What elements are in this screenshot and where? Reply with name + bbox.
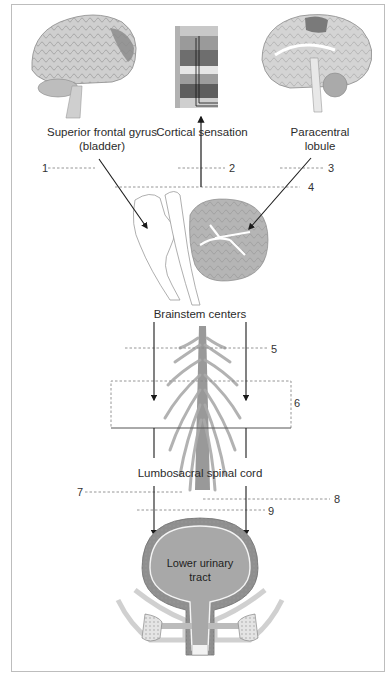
marker-6: 6 — [294, 397, 300, 409]
marker-1: 1 — [42, 162, 48, 174]
label-paracentral-line1: Paracentral — [280, 125, 360, 139]
level-dashes-top — [48, 168, 325, 187]
label-cortical-sensation: Cortical sensation — [152, 125, 252, 139]
medial-brain-illustration — [262, 15, 372, 112]
lateral-brain-illustration — [32, 15, 136, 118]
label-paracentral-line2: lobule — [280, 139, 360, 153]
marker-2: 2 — [229, 162, 235, 174]
brainstem-cerebellum-illustration — [133, 192, 268, 306]
label-lower-urinary-tract-line1: Lower urinary — [160, 556, 240, 570]
label-lower-urinary-tract-line2: tract — [160, 570, 240, 584]
cortical-column-illustration — [175, 26, 218, 108]
marker-8: 8 — [334, 493, 340, 505]
marker-9: 9 — [268, 505, 274, 517]
marker-4: 4 — [308, 181, 314, 193]
label-superior-frontal-gyrus-line2: (bladder) — [22, 139, 182, 153]
marker-5: 5 — [271, 343, 277, 355]
label-lower-urinary-tract: Lower urinary tract — [160, 556, 240, 584]
marker-3: 3 — [328, 162, 334, 174]
label-lumbosacral-spinal-cord: Lumbosacral spinal cord — [130, 466, 270, 480]
label-paracentral-lobule: Paracentral lobule — [280, 125, 360, 153]
label-brainstem-centers: Brainstem centers — [140, 307, 260, 321]
level-dashes-bottom — [85, 492, 330, 510]
arrow-from-superior-frontal — [99, 159, 147, 228]
arrow-from-paracentral — [249, 158, 311, 229]
bladder-illustration — [118, 518, 282, 655]
marker-7: 7 — [77, 486, 83, 498]
paracentral-highlight — [305, 16, 328, 32]
